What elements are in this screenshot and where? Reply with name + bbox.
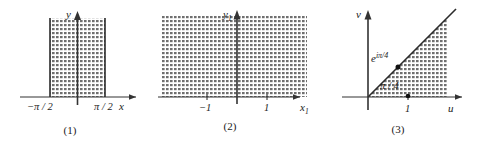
panel-1-x-axis-label: x [118, 100, 124, 112]
panel-2-plot: −1 1 x1 y1 (2) [150, 0, 320, 143]
panel-2-upper-half-plane: −1 1 x1 y1 (2) [150, 0, 320, 143]
panel-1-vertical-strip: x y −π / 2 π / 2 (1) [0, 0, 160, 143]
panel-3-point-label: eiπ/4 [371, 51, 388, 64]
panel-1-y-axis-label: y [65, 8, 71, 20]
panel-1-tick-label-pi-2: π / 2 [94, 101, 113, 112]
panel-1-x-axis-arrow [129, 94, 136, 100]
panel-1-plot: x y −π / 2 π / 2 (1) [0, 0, 160, 143]
panel-3-plot: 1 eiπ/4 π / 4 u v (3) [320, 0, 478, 143]
panel-3-wedge-sector: 1 eiπ/4 π / 4 u v (3) [320, 0, 478, 143]
panel-3-v-axis-arrow [365, 10, 372, 20]
panel-3-u-axis-label: u [448, 102, 454, 114]
conformal-mapping-figure: x y −π / 2 π / 2 (1) [0, 0, 478, 143]
panel-3-point-marker-1 [406, 94, 411, 99]
panel-1-y-axis-arrow [74, 11, 81, 20]
panel-3-tick-label-1: 1 [405, 103, 410, 114]
panel-2-shaded-region [162, 16, 307, 97]
panel-2-x-axis-label: x1 [299, 101, 309, 116]
panel-2-y-axis-arrow [234, 10, 241, 20]
panel-3-point-marker-exp [396, 65, 401, 70]
panel-3-caption: (3) [392, 123, 405, 136]
panel-3-v-axis-label: v [356, 8, 361, 20]
panel-1-caption: (1) [64, 124, 77, 137]
panel-3-u-axis-arrow [455, 94, 462, 100]
panel-3-angle-label: π / 4 [380, 80, 399, 91]
panel-2-tick-label-1: 1 [264, 102, 269, 113]
panel-2-caption: (2) [224, 120, 237, 133]
panel-2-tick-label-neg-1: −1 [199, 102, 211, 113]
panel-1-tick-label-neg-pi-2: −π / 2 [27, 101, 54, 112]
